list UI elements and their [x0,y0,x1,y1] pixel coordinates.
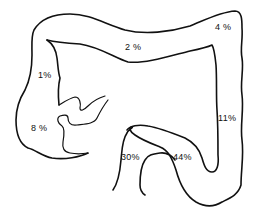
label-cecum: 8 % [31,124,47,133]
label-transverse-colon: 2 % [125,43,141,52]
rectum-inner-wall [140,153,175,195]
ileum [59,96,105,110]
label-descending-colon: 11% [218,114,236,123]
label-splenic-flexure: 4 % [215,23,231,32]
ileum-lower [58,100,108,154]
label-ascending-colon: 1% [38,71,52,80]
label-rectum: 30% [121,153,140,162]
colon-diagram [0,0,259,217]
label-sigmoid-colon: 44% [173,153,192,162]
